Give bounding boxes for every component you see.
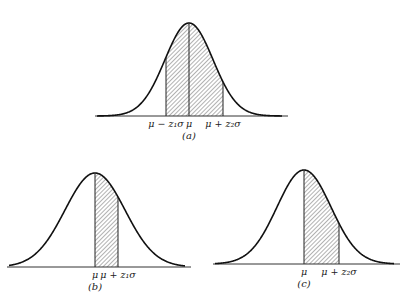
axis-label: μ (301, 266, 307, 277)
axis-label: μ (186, 118, 192, 129)
normal-curves-figure: μ − z₁σμμ + z₂σ (a) μμ + z₁σ (b) μμ + z₂… (0, 0, 413, 305)
shaded-area (95, 173, 118, 267)
shaded-area (304, 170, 339, 264)
panel-caption: (a) (182, 130, 196, 141)
panel-b-normal-curve: μμ + z₁σ (b) (7, 173, 191, 292)
axis-label: μ + z₂σ (321, 266, 357, 277)
panel-a-normal-curve: μ − z₁σμμ + z₂σ (a) (95, 23, 288, 141)
axis-labels: μμ + z₁σ (92, 269, 136, 280)
panel-caption: (c) (297, 278, 311, 289)
axis-labels: μ − z₁σμμ + z₂σ (148, 118, 241, 129)
axis-label: μ − z₁σ (148, 118, 184, 129)
axis-label: μ (92, 269, 98, 280)
axis-labels: μμ + z₂σ (301, 266, 357, 277)
axis-label: μ + z₂σ (205, 118, 241, 129)
panel-c-normal-curve: μμ + z₂σ (c) (213, 170, 400, 289)
panel-caption: (b) (88, 281, 102, 292)
axis-label: μ + z₁σ (100, 269, 136, 280)
